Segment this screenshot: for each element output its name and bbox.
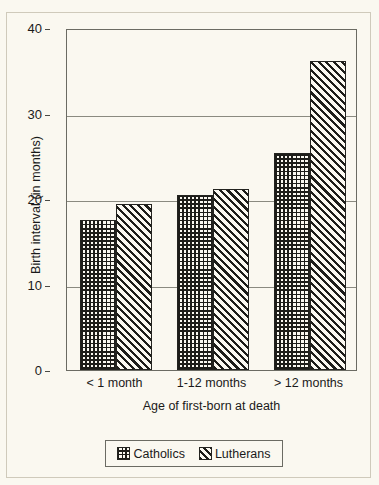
bar-catholics-0[interactable]: [80, 220, 116, 370]
legend-item-catholics[interactable]: Catholics: [117, 447, 184, 461]
legend-label-catholics: Catholics: [133, 447, 184, 461]
y-tick-mark-10: [45, 286, 50, 287]
bar-catholics-2[interactable]: [274, 153, 310, 370]
legend-item-lutherans[interactable]: Lutherans: [199, 447, 271, 461]
legend-swatch-lutherans-icon: [199, 447, 212, 460]
y-tick-mark-40: [45, 29, 50, 30]
chart-legend: Catholics Lutherans: [105, 440, 283, 467]
plot-area: [66, 29, 357, 371]
x-axis-title: Age of first-born at death: [66, 399, 357, 413]
y-tick-mark-20: [45, 200, 50, 201]
plot-inner: [67, 30, 356, 370]
bar-lutherans-2[interactable]: [310, 61, 346, 371]
legend-swatch-catholics-icon: [117, 447, 130, 460]
y-tick-label-40: 40: [28, 22, 42, 35]
bar-lutherans-0[interactable]: [116, 204, 152, 370]
y-tick-mark-0: [45, 371, 50, 372]
x-tick-label-2: > 12 months: [260, 376, 357, 390]
y-axis-title: Birth interval (in months): [29, 95, 43, 315]
bar-chart-figure: 010203040 Birth interval (in months) Age…: [0, 0, 379, 485]
legend-label-lutherans: Lutherans: [215, 447, 271, 461]
x-tick-label-0: < 1 month: [66, 376, 163, 390]
bar-lutherans-1[interactable]: [213, 189, 249, 370]
bar-catholics-1[interactable]: [177, 195, 213, 370]
y-tick-mark-30: [45, 115, 50, 116]
y-tick-label-0: 0: [35, 364, 42, 377]
x-tick-label-1: 1-12 months: [163, 376, 260, 390]
